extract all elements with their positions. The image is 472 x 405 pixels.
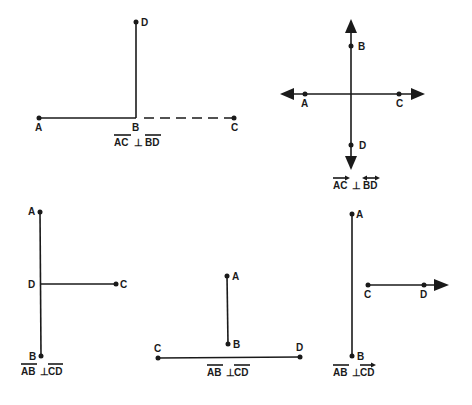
label-C: C (364, 289, 371, 300)
caption-right: BD (363, 180, 377, 191)
point-D (422, 283, 427, 288)
label-D: D (359, 140, 366, 151)
arrow-right-icon (434, 279, 449, 291)
point-B (349, 44, 354, 49)
figure-2: B A C D AC ⊥ BD (280, 19, 425, 191)
segment-CD (158, 357, 300, 358)
segment-AB (227, 276, 228, 344)
label-A: A (301, 98, 308, 109)
caption-left: AC (114, 137, 128, 148)
figure-5: A B C D AB ⊥ CD (333, 209, 449, 378)
segment-AB (40, 212, 41, 356)
label-A: A (35, 122, 42, 133)
caption-right: CD (234, 367, 248, 378)
perpendicular-symbol: ⊥ (134, 137, 143, 148)
point-A (303, 92, 308, 97)
point-C (156, 356, 161, 361)
label-B: B (132, 122, 139, 133)
caption-left: AB (333, 367, 347, 378)
point-D (349, 143, 354, 148)
point-B (39, 354, 44, 359)
point-A (350, 212, 355, 217)
label-D: D (296, 342, 303, 353)
arrow-down-icon (345, 156, 357, 170)
label-D: D (141, 17, 148, 28)
caption-right: CD (48, 366, 62, 377)
figure-3: A D C B AB ⊥ CD (21, 206, 127, 377)
caption-right: CD (360, 367, 374, 378)
point-C (397, 92, 402, 97)
point-C (232, 116, 237, 121)
perpendicular-symbol: ⊥ (352, 180, 361, 191)
label-B: B (358, 41, 365, 52)
perpendicular-figures-canvas: A B C D AC ⊥ BD B A C D AC ⊥ BD (0, 0, 472, 405)
figure-1: A B C D AC ⊥ BD (35, 17, 238, 148)
label-C: C (154, 343, 161, 354)
label-A: A (356, 209, 363, 220)
point-C (114, 282, 119, 287)
label-C: C (396, 98, 403, 109)
label-A: A (28, 206, 35, 217)
caption-left: AB (207, 367, 221, 378)
figure-4: A B C D AB ⊥ CD (154, 271, 303, 378)
point-D (134, 20, 139, 25)
point-D (298, 355, 303, 360)
caption-left: AB (21, 366, 35, 377)
label-B: B (357, 351, 364, 362)
point-A (37, 116, 42, 121)
label-A: A (232, 271, 239, 282)
label-B: B (29, 351, 36, 362)
arrow-right-icon (411, 88, 425, 100)
label-C: C (231, 122, 238, 133)
point-B (350, 354, 355, 359)
point-A (38, 210, 43, 215)
label-C: C (120, 279, 127, 290)
point-A (225, 274, 230, 279)
label-B: B (233, 339, 240, 350)
point-B (226, 342, 231, 347)
label-D: D (420, 289, 427, 300)
label-D: D (28, 279, 35, 290)
arrow-left-icon (280, 88, 294, 100)
caption-right: BD (145, 137, 159, 148)
arrow-up-icon (345, 19, 357, 33)
caption-left: AC (333, 180, 347, 191)
point-C (366, 283, 371, 288)
